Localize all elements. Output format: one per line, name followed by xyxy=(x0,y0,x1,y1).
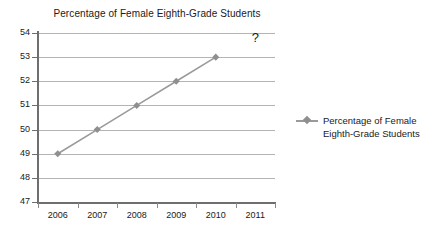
data-point-marker xyxy=(173,78,180,85)
x-axis-tick xyxy=(38,203,39,208)
y-axis-tick xyxy=(32,105,38,106)
x-axis-tick-label: 2008 xyxy=(117,210,157,220)
y-axis-tick xyxy=(32,81,38,82)
x-axis-tick-label: 2010 xyxy=(196,210,236,220)
data-point-marker xyxy=(212,54,219,61)
data-point-marker xyxy=(94,126,101,133)
x-axis-tick-label: 2006 xyxy=(38,210,78,220)
question-mark-annotation: ? xyxy=(252,31,259,44)
x-axis-tick-label: 2009 xyxy=(156,210,196,220)
chart-legend: Percentage of Female Eighth-Grade Studen… xyxy=(296,114,441,140)
x-axis-tick-label: 2011 xyxy=(235,210,275,220)
legend-entry-label: Percentage of Female Eighth-Grade Studen… xyxy=(323,114,441,140)
y-axis-tick xyxy=(32,57,38,58)
data-point-marker xyxy=(133,102,140,109)
x-axis-tick xyxy=(196,203,197,208)
line-chart: Percentage of Female Eighth-Grade Studen… xyxy=(0,0,441,241)
x-axis-tick-label: 2007 xyxy=(77,210,117,220)
y-axis-tick xyxy=(32,154,38,155)
y-axis-tick xyxy=(32,130,38,131)
data-point-marker xyxy=(54,150,61,157)
legend-diamond-line-marker xyxy=(296,115,318,127)
y-axis-tick xyxy=(32,33,38,34)
x-axis-tick xyxy=(236,203,237,208)
x-axis-tick xyxy=(157,203,158,208)
x-axis-tick xyxy=(78,203,79,208)
x-axis-tick xyxy=(275,203,276,208)
y-axis-tick xyxy=(32,178,38,179)
x-axis-tick xyxy=(117,203,118,208)
